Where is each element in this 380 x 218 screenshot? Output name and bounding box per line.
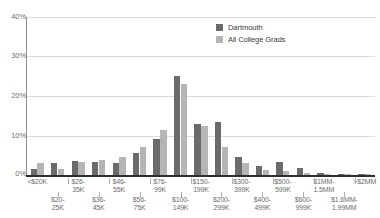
x-axis-tick bbox=[181, 192, 182, 197]
legend-label-dartmouth: Dartmouth bbox=[228, 23, 263, 32]
x-axis-tick bbox=[109, 178, 110, 184]
x-axis-label: $400- 499K bbox=[244, 196, 280, 213]
bar-group bbox=[88, 17, 108, 175]
x-axis-label: $1MM- 1.5MM bbox=[306, 178, 342, 195]
bar-group bbox=[129, 17, 149, 175]
x-axis-label: $36- 45K bbox=[81, 196, 117, 213]
bar-group bbox=[47, 17, 67, 175]
bar-group bbox=[191, 17, 211, 175]
x-axis-tick bbox=[191, 178, 192, 184]
legend-label-all-college-grads: All College Grads bbox=[228, 35, 286, 44]
x-axis-label: $76- 99K bbox=[142, 178, 178, 195]
legend: Dartmouth All College Grads bbox=[216, 22, 286, 46]
income-distribution-chart: 40% 30% 20% 10% 0% Dartmouth All College… bbox=[0, 0, 380, 218]
bar-group bbox=[27, 17, 47, 175]
legend-item-all-college-grads: All College Grads bbox=[216, 34, 286, 44]
bar-dartmouth bbox=[153, 139, 159, 175]
bar-group bbox=[150, 17, 170, 175]
bar-group bbox=[293, 17, 313, 175]
x-axis-label: $200- 299K bbox=[203, 196, 239, 213]
y-tick-label-20: 20% bbox=[2, 92, 26, 100]
x-axis-label: $300- 399K bbox=[224, 178, 260, 195]
x-axis-tick bbox=[262, 192, 263, 197]
bar-all-college-grads bbox=[181, 84, 187, 175]
bar-all-college-grads bbox=[201, 126, 207, 175]
bar-group bbox=[314, 17, 334, 175]
bar-group bbox=[355, 17, 375, 175]
bar-all-college-grads bbox=[37, 163, 43, 175]
y-tick-label-30: 30% bbox=[2, 52, 26, 60]
x-axis-label: $20- 25K bbox=[40, 196, 76, 213]
bar-group bbox=[334, 17, 354, 175]
bar-group bbox=[170, 17, 190, 175]
bar-group bbox=[68, 17, 88, 175]
bar-dartmouth bbox=[256, 166, 262, 175]
x-axis-tick bbox=[344, 192, 345, 197]
x-axis-label: $100- 149K bbox=[163, 196, 199, 213]
bar-dartmouth bbox=[72, 161, 78, 175]
plot-area bbox=[27, 17, 375, 175]
x-axis-tick bbox=[99, 192, 100, 197]
x-axis-tick bbox=[314, 178, 315, 184]
bar-all-college-grads bbox=[78, 162, 84, 175]
x-axis-label: $56- 75K bbox=[122, 196, 158, 213]
x-axis-labels: <$20K$20- 25K$26- 35K$36- 45K$46- 55K$56… bbox=[27, 177, 375, 218]
x-axis-label: $46- 55K bbox=[101, 178, 137, 195]
bar-all-college-grads bbox=[119, 157, 125, 175]
bar-dartmouth bbox=[133, 153, 139, 175]
x-axis-label: $26- 35K bbox=[60, 178, 96, 195]
bar-group bbox=[109, 17, 129, 175]
x-axis-tick bbox=[273, 178, 274, 184]
x-axis-tick bbox=[232, 178, 233, 184]
x-axis-tick bbox=[58, 192, 59, 197]
bar-dartmouth bbox=[51, 163, 57, 175]
y-tick-label-40: 40% bbox=[2, 13, 26, 21]
x-axis-tick bbox=[221, 192, 222, 197]
x-axis-label: $600- 999K bbox=[285, 196, 321, 213]
bar-all-college-grads bbox=[160, 130, 166, 175]
bar-dartmouth bbox=[235, 157, 241, 175]
legend-swatch-dartmouth-icon bbox=[216, 24, 223, 31]
x-axis-tick bbox=[303, 192, 304, 197]
y-tick-label-0: 0% bbox=[2, 170, 26, 178]
bar-all-college-grads bbox=[222, 147, 228, 175]
x-axis-tick bbox=[68, 178, 69, 184]
bar-dartmouth bbox=[113, 163, 119, 175]
x-axis-tick bbox=[140, 192, 141, 197]
x-axis-label: $1.6MM- 1.99MM bbox=[326, 196, 362, 213]
legend-item-dartmouth: Dartmouth bbox=[216, 22, 286, 32]
y-tick-label-10: 10% bbox=[2, 132, 26, 140]
bar-dartmouth bbox=[276, 162, 282, 175]
x-axis-label: >$2MM bbox=[347, 178, 380, 186]
bar-dartmouth bbox=[194, 124, 200, 175]
bar-dartmouth bbox=[92, 162, 98, 175]
x-axis-label: $150- 199K bbox=[183, 178, 219, 195]
x-axis-label: $500- 599K bbox=[265, 178, 301, 195]
x-axis-tick bbox=[150, 178, 151, 184]
bar-dartmouth bbox=[174, 76, 180, 175]
bar-all-college-grads bbox=[99, 160, 105, 175]
bar-dartmouth bbox=[215, 122, 221, 175]
legend-swatch-all-college-grads-icon bbox=[216, 36, 223, 43]
x-axis-tick bbox=[355, 178, 356, 184]
bar-all-college-grads bbox=[242, 163, 248, 175]
bar-dartmouth bbox=[297, 168, 303, 175]
bar-all-college-grads bbox=[140, 147, 146, 175]
x-axis-label: <$20K bbox=[19, 178, 55, 186]
